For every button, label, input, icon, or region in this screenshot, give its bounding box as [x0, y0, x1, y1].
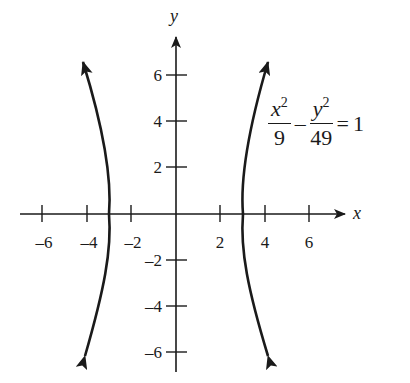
- exponent: 2: [323, 95, 330, 110]
- hyperbola-right-branch: [242, 62, 268, 356]
- y-tick-label: 6: [154, 66, 163, 85]
- x-axis-label: x: [352, 203, 361, 223]
- x-tick-label: –2: [124, 233, 142, 252]
- x-tick-label: –6: [35, 233, 53, 252]
- x-tick-label: –4: [80, 233, 99, 252]
- var-y: y: [313, 96, 323, 121]
- denominator: 9: [274, 124, 285, 152]
- var-x: x: [271, 96, 281, 121]
- x-tick-labels: –6 –4 –2 2 4 6: [35, 233, 314, 252]
- x-tick-label: 2: [216, 233, 225, 252]
- y-tick-label: 2: [154, 158, 163, 177]
- fraction-y: y2 49: [310, 96, 333, 152]
- y-tick-label: 4: [154, 112, 163, 131]
- denominator: 49: [310, 124, 332, 152]
- hyperbola-equation: x2 9 – y2 49 = 1: [268, 96, 364, 152]
- equals-sign: =: [333, 111, 353, 137]
- y-axis-label: y: [168, 6, 178, 26]
- y-tick-label: –6: [144, 343, 162, 362]
- y-tick-label: –4: [144, 297, 163, 316]
- x-tick-label: 4: [261, 233, 270, 252]
- exponent: 2: [281, 95, 288, 110]
- fraction-x: x2 9: [268, 96, 291, 152]
- y-tick-label: –2: [144, 251, 162, 270]
- right-hand-side: 1: [353, 111, 364, 137]
- minus-sign: –: [291, 111, 310, 137]
- hyperbola-plot: –6 –4 –2 2 4 6 6 4 2 –2 –4 –6 x y: [0, 0, 410, 383]
- x-tick-label: 6: [305, 233, 314, 252]
